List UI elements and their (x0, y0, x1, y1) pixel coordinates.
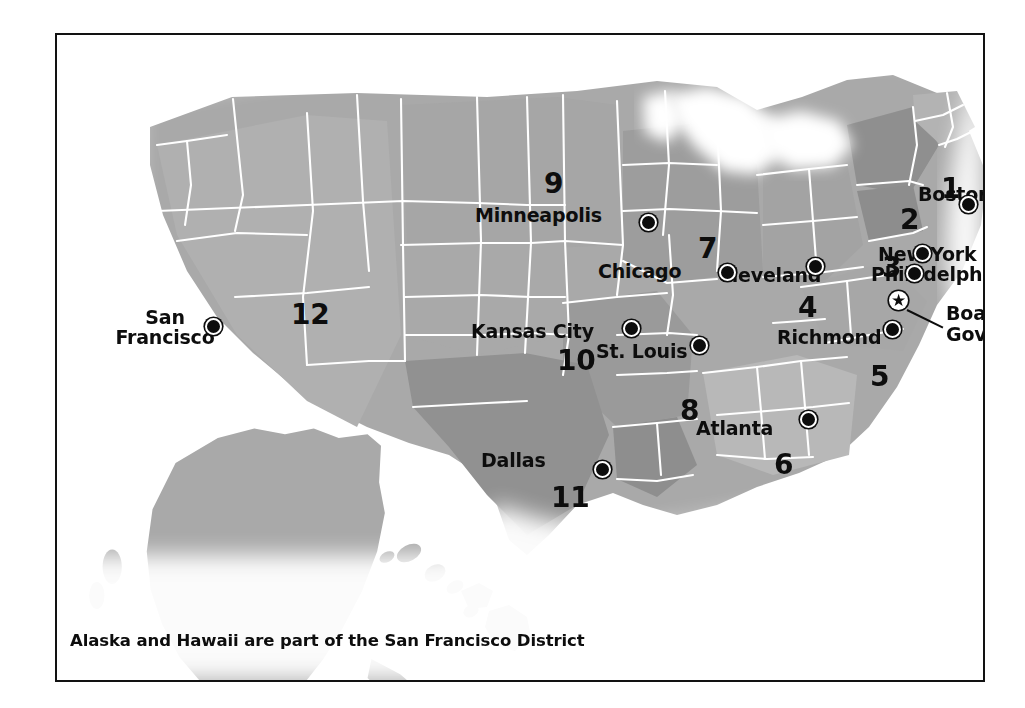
district-number-4: 4 (798, 293, 817, 323)
city-marker-kansas-city (623, 320, 640, 337)
us-map-graphic (57, 35, 983, 680)
board-of-governors-line-2: Governors (946, 324, 983, 345)
city-label-minneapolis: Minneapolis (475, 205, 602, 226)
board-of-governors-star-icon: ★ (889, 291, 908, 310)
district-number-6: 6 (774, 450, 793, 480)
board-of-governors-label: Board of Governors (946, 303, 983, 346)
city-marker-cleveland (807, 258, 824, 275)
city-label-chicago: Chicago (598, 261, 681, 282)
city-marker-chicago (719, 264, 736, 281)
city-label-atlanta: Atlanta (696, 418, 773, 439)
map-frame: 9 7 1 2 3 4 5 6 8 10 11 12 Boston New Yo… (55, 33, 985, 682)
map-stage: 9 7 1 2 3 4 5 6 8 10 11 12 Boston New Yo… (57, 35, 983, 680)
city-label-kansas-city: Kansas City (471, 321, 594, 342)
city-label-st-louis: St. Louis (596, 341, 687, 362)
city-label-philadelphia: Philadelphia (871, 264, 983, 285)
figure-page: 9 7 1 2 3 4 5 6 8 10 11 12 Boston New Yo… (0, 0, 1025, 708)
city-marker-st-louis (691, 337, 708, 354)
district-number-11: 11 (551, 483, 590, 513)
city-marker-boston (960, 196, 977, 213)
city-marker-richmond (884, 321, 901, 338)
district-number-9: 9 (544, 169, 563, 199)
city-marker-philadelphia (906, 265, 923, 282)
map-footnote: Alaska and Hawaii are part of the San Fr… (70, 632, 585, 650)
city-marker-san-francisco (205, 318, 222, 335)
city-marker-atlanta (800, 411, 817, 428)
district-number-5: 5 (870, 362, 889, 392)
city-marker-new-york (914, 245, 931, 262)
district-number-12: 12 (291, 300, 330, 330)
board-of-governors-line-1: Board of (946, 303, 983, 324)
district-number-10: 10 (557, 346, 596, 376)
city-marker-minneapolis (640, 214, 657, 231)
city-label-dallas: Dallas (481, 450, 546, 471)
san-francisco-line-2: Francisco (109, 327, 221, 347)
city-marker-dallas (594, 461, 611, 478)
city-label-richmond: Richmond (777, 327, 881, 348)
district-number-2: 2 (900, 205, 919, 235)
district-number-7: 7 (698, 234, 717, 264)
